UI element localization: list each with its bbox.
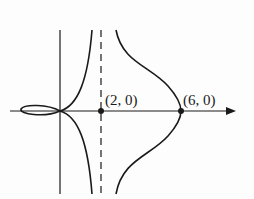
curve-left-branch-lower: [60, 111, 92, 194]
curve-left-branch-upper: [60, 30, 92, 111]
label-point-2-0: (2, 0): [105, 92, 138, 109]
curve-diagram: (2, 0) (6, 0): [0, 0, 254, 199]
label-point-6-0: (6, 0): [183, 92, 216, 109]
x-axis-arrow-icon: [226, 107, 236, 115]
point-2-0: [98, 108, 104, 114]
curve-right-branch-lower: [116, 111, 181, 194]
curve-loop: [21, 105, 60, 114]
